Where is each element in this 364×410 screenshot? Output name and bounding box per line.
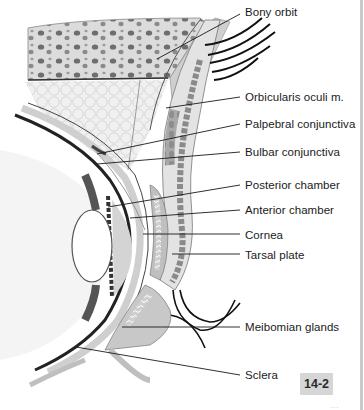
label-sclera: Sclera <box>245 369 278 381</box>
lens-shape <box>72 210 112 282</box>
figure-number-badge: 14-2 <box>300 373 333 395</box>
label-cornea: Cornea <box>245 229 283 241</box>
eyelid-anatomy-figure: Bony orbit Orbicularis oculi m. Palpebra… <box>0 0 364 410</box>
page-edge-border <box>360 0 363 410</box>
label-orbicularis-oculi: Orbicularis oculi m. <box>245 91 344 103</box>
label-palpebral-conjunctiva: Palpebral conjunctiva <box>245 118 355 130</box>
label-anterior-chamber: Anterior chamber <box>245 204 334 216</box>
label-posterior-chamber: Posterior chamber <box>245 179 340 191</box>
label-tarsal-plate: Tarsal plate <box>245 249 304 261</box>
label-bulbar-conjunctiva: Bulbar conjunctiva <box>245 146 340 158</box>
page-number-fragment: ··· <box>330 402 339 410</box>
label-bony-orbit: Bony orbit <box>245 6 297 18</box>
label-meibomian-glands: Meibomian glands <box>245 321 339 333</box>
